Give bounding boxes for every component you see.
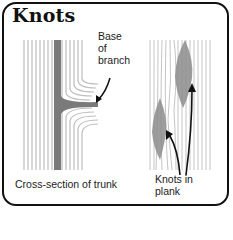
label-knots-in-plank: Knots in plank — [155, 173, 193, 197]
pith — [54, 40, 98, 170]
label-base-of-branch: Base of branch — [98, 30, 130, 66]
label-cross-section: Cross-section of trunk — [15, 178, 117, 190]
